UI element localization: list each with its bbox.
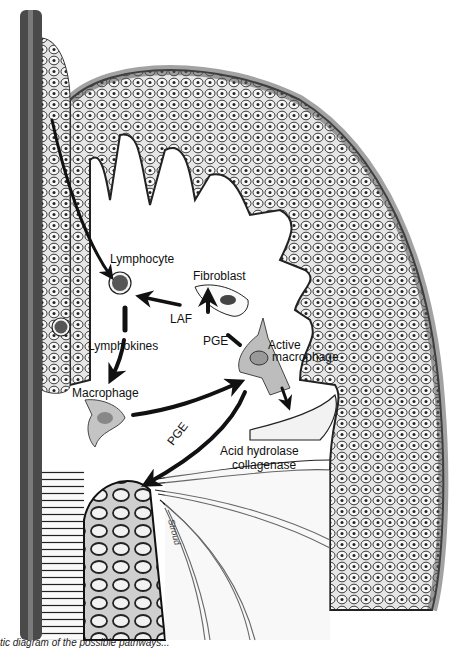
macrophage-cell [85,400,125,447]
sulcular-epithelium [42,38,70,393]
gingiva-illustration: Stroud [0,0,456,648]
label-lymphocyte: Lymphocyte [110,253,174,265]
label-active-macrophage-2: macrophage [272,351,339,363]
label-lymphokines: Lymphokines [88,340,158,352]
fibroblast-cell [195,285,248,316]
label-fibroblast: Fibroblast [193,270,246,282]
label-macrophage: Macrophage [72,387,139,399]
tissue-lymphocyte-cell [52,318,70,336]
alveolar-bone [84,481,165,640]
label-acid-hydrolase: Acid hydrolase [220,445,299,457]
label-collagenase: collagenase [232,459,296,471]
periodontal-ligament [42,470,84,640]
label-laf: LAF [170,313,192,325]
lymphocyte-cell [109,272,131,294]
figure-caption: tic diagram of the possible pathways... [0,637,170,648]
label-pge-top: PGE [203,335,228,347]
